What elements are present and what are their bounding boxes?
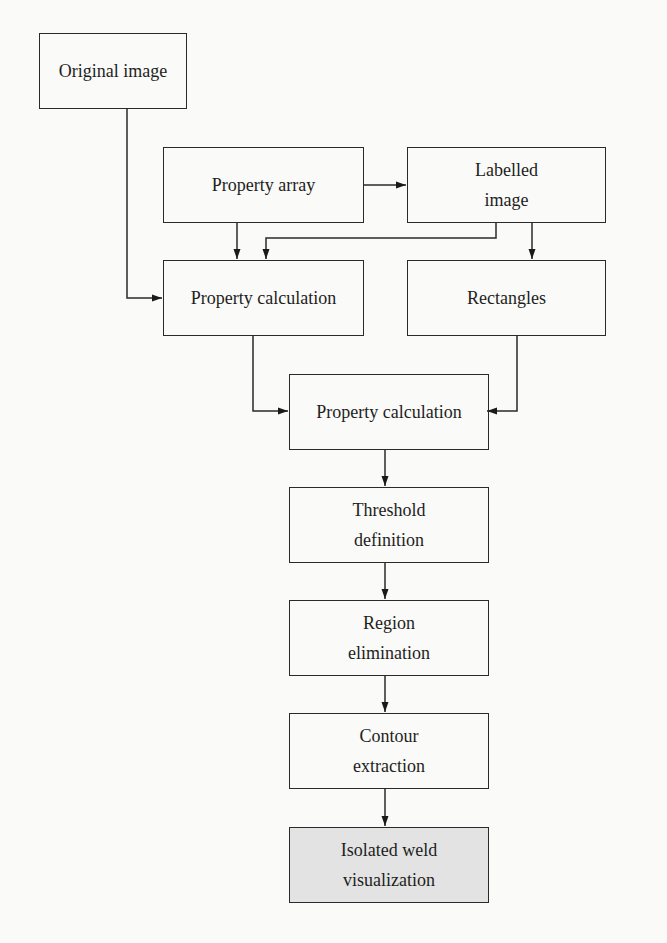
connector-layer	[0, 0, 667, 943]
node-label-line-2: definition	[353, 525, 426, 555]
node-label-line-1: Threshold	[353, 495, 426, 525]
edge-labelled-to-propcalc1	[266, 222, 496, 259]
node-labelled-image: Labelled image	[407, 147, 606, 223]
node-threshold-definition: Threshold definition	[289, 487, 489, 563]
node-label: Property calculation	[191, 283, 336, 313]
node-label-line-1: Region	[348, 608, 430, 638]
node-property-array: Property array	[163, 147, 364, 223]
flowchart: Original image Property array Labelled i…	[0, 0, 667, 943]
node-label: Rectangles	[467, 283, 546, 313]
node-label: Property calculation	[316, 397, 461, 427]
node-property-calculation-2: Property calculation	[289, 374, 489, 450]
node-isolated-weld-visualization: Isolated weld visualization	[289, 827, 489, 903]
node-contour-extraction: Contour extraction	[289, 713, 489, 789]
node-label-line-2: elimination	[348, 638, 430, 668]
edge-propcalc1-to-propcalc2	[253, 335, 288, 411]
node-property-calculation-1: Property calculation	[163, 260, 364, 336]
node-label-line-1: Isolated weld	[341, 835, 437, 865]
edge-rectangles-to-propcalc2	[487, 335, 517, 411]
node-label-line-2: visualization	[341, 865, 437, 895]
node-label-line-1: Contour	[353, 721, 425, 751]
node-label-line-1: Labelled	[475, 155, 538, 185]
node-label: Original image	[59, 56, 167, 86]
edge-original-to-propcalc1	[127, 108, 162, 298]
node-label: Property array	[212, 170, 315, 200]
node-region-elimination: Region elimination	[289, 600, 489, 676]
node-label-line-2: extraction	[353, 751, 425, 781]
node-label-line-2: image	[475, 185, 538, 215]
node-original-image: Original image	[39, 33, 187, 109]
node-rectangles: Rectangles	[407, 260, 606, 336]
